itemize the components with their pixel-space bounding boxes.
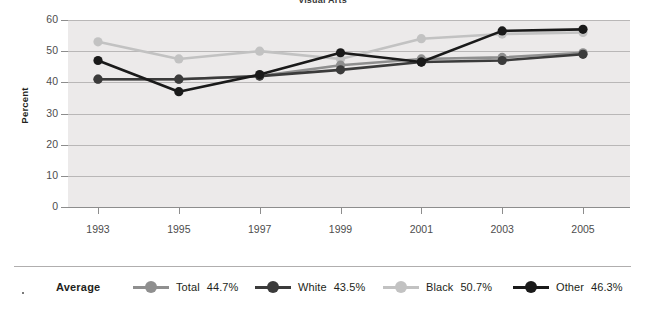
legend-item-total[interactable]: Total44.7% [133, 279, 238, 295]
data-point [578, 25, 587, 34]
data-point [93, 75, 102, 84]
legend-swatch-icon [255, 280, 291, 294]
legend-divider [14, 266, 631, 267]
data-point [578, 50, 587, 59]
data-point [498, 56, 507, 65]
chart-container: Visual Arts Percent 0102030405060 199319… [0, 0, 645, 309]
data-point [417, 57, 426, 66]
legend-swatch-icon [383, 280, 419, 294]
data-point [417, 34, 426, 43]
legend-swatch-icon [133, 280, 169, 294]
legend-label: Total [176, 281, 200, 293]
legend-marker-dot [395, 281, 407, 293]
legend-lead-marker [22, 292, 24, 294]
legend-value: 43.5% [334, 281, 366, 293]
legend-label: White [298, 281, 327, 293]
series-black [93, 28, 587, 64]
legend-marker-dot [145, 281, 157, 293]
legend-marker-dot [525, 281, 537, 293]
legend-label: Black [426, 281, 453, 293]
legend-value: 44.7% [207, 281, 239, 293]
data-point [174, 54, 183, 63]
legend-label: Other [556, 281, 584, 293]
data-point [498, 26, 507, 35]
legend-title: Average [56, 281, 100, 293]
data-point [255, 47, 264, 56]
series-layer [0, 0, 645, 309]
data-point [336, 65, 345, 74]
data-point [93, 56, 102, 65]
data-point [255, 70, 264, 79]
data-point [174, 75, 183, 84]
legend-item-black[interactable]: Black50.7% [383, 279, 492, 295]
data-point [174, 87, 183, 96]
legend-value: 46.3% [591, 281, 623, 293]
legend-value: 50.7% [460, 281, 492, 293]
legend-marker-dot [267, 281, 279, 293]
legend-item-other[interactable]: Other46.3% [513, 279, 623, 295]
legend-item-white[interactable]: White43.5% [255, 279, 365, 295]
data-point [336, 48, 345, 57]
data-point [93, 37, 102, 46]
legend-swatch-icon [513, 280, 549, 294]
